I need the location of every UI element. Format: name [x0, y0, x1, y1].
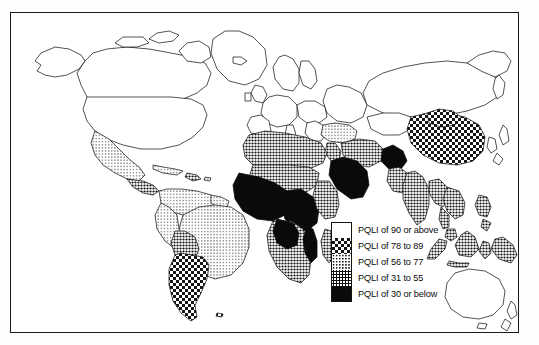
region-afghanistan — [381, 145, 407, 169]
region-new-guinea — [491, 237, 517, 263]
legend-row: PQLI of 30 or below — [321, 286, 471, 302]
legend-label-78-to-89: PQLI of 78 to 89 — [358, 239, 423, 253]
region-korea — [487, 137, 497, 153]
legend-label-56-to-77: PQLI of 56 to 77 — [358, 255, 423, 269]
region-hispaniola — [185, 173, 201, 181]
legend-label-30-or-below: PQLI of 30 or below — [358, 287, 437, 301]
region-central-america — [127, 179, 159, 195]
pqli-legend: PQLI of 90 or above PQLI of 78 to 89 PQL… — [321, 222, 471, 317]
region-ireland — [245, 93, 251, 101]
region-scandinavia — [273, 55, 299, 91]
region-philippines-2 — [481, 219, 491, 231]
region-central-asia — [367, 113, 411, 135]
legend-swatch-90-or-above — [331, 222, 352, 238]
map-figure: PQLI of 90 or above PQLI of 78 to 89 PQL… — [0, 0, 539, 345]
region-new-zealand — [507, 301, 517, 319]
legend-swatch-30-or-below — [331, 286, 352, 302]
region-india — [403, 171, 429, 225]
legend-row: PQLI of 90 or above — [321, 222, 471, 238]
region-japan-south — [493, 153, 503, 165]
region-argentina-chile — [169, 253, 209, 321]
region-sulawesi — [479, 241, 491, 259]
region-british-isles — [251, 85, 267, 103]
legend-row: PQLI of 31 to 55 — [321, 270, 471, 286]
region-eastern-europe — [323, 85, 367, 123]
region-arctic-islands — [115, 37, 149, 47]
legend-swatch-31-to-55 — [331, 270, 352, 286]
region-central-europe — [297, 101, 327, 123]
legend-label-90-or-above: PQLI of 90 or above — [358, 223, 438, 237]
region-japan — [499, 125, 509, 145]
legend-label-31-to-55: PQLI of 31 to 55 — [358, 271, 423, 285]
region-puerto-rico — [204, 177, 211, 181]
region-cuba — [153, 165, 183, 175]
region-arctic-islands-2 — [149, 31, 179, 43]
region-philippines — [475, 195, 491, 217]
region-new-zealand-south — [501, 319, 511, 331]
region-finland-baltic — [299, 61, 317, 89]
map-frame: PQLI of 90 or above PQLI of 78 to 89 PQL… — [10, 12, 519, 333]
region-falklands — [216, 313, 223, 317]
legend-row: PQLI of 56 to 77 — [321, 254, 471, 270]
region-turkey — [321, 123, 357, 143]
legend-row: PQLI of 78 to 89 — [321, 238, 471, 254]
legend-swatch-56-to-77 — [331, 254, 352, 270]
region-tasmania — [477, 323, 487, 329]
legend-swatch-78-to-89 — [331, 238, 352, 254]
